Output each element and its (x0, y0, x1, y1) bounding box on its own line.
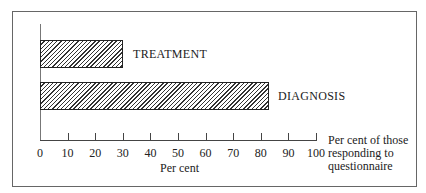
x-tick (233, 133, 234, 140)
x-tick-label: 60 (200, 146, 212, 161)
x-tick-label: 100 (307, 146, 325, 161)
x-tick-label: 50 (172, 146, 184, 161)
bar-label-treatment: TREATMENT (133, 47, 207, 62)
bar-treatment (40, 40, 123, 68)
x-axis-label: Per cent (160, 161, 199, 176)
x-tick-label: 70 (227, 146, 239, 161)
x-tick (150, 133, 151, 140)
x-tick (178, 133, 179, 140)
x-tick-label: 80 (255, 146, 267, 161)
x-tick (316, 133, 317, 140)
x-tick-label: 0 (37, 146, 43, 161)
bar-diagnosis (40, 82, 269, 110)
x-axis-secondary-label: Per cent of those responding to question… (328, 134, 408, 173)
bar-label-diagnosis: DIAGNOSIS (278, 89, 345, 104)
x-tick-label: 10 (62, 146, 74, 161)
x-tick (206, 133, 207, 140)
x-tick-label: 40 (144, 146, 156, 161)
x-tick (123, 133, 124, 140)
x-tick (261, 133, 262, 140)
secondary-label-line-3: questionnaire (328, 160, 408, 173)
x-tick-label: 20 (89, 146, 101, 161)
x-axis-line (40, 140, 317, 141)
x-tick-label: 30 (117, 146, 129, 161)
x-tick (95, 133, 96, 140)
x-tick (68, 133, 69, 140)
x-tick-label: 90 (282, 146, 294, 161)
x-tick (288, 133, 289, 140)
